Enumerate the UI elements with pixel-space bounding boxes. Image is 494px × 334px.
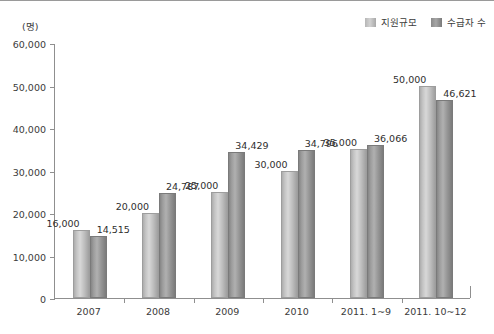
bar-group: 20,00024,787 xyxy=(124,44,193,298)
bar-series-1[interactable]: 25,000 xyxy=(211,192,228,298)
bar-series-2[interactable]: 34,796 xyxy=(298,150,315,298)
bar-series-1[interactable]: 30,000 xyxy=(281,171,298,299)
legend-item-series-2: 수급자 수 xyxy=(431,15,486,29)
bar-series-1[interactable]: 50,000 xyxy=(419,86,436,299)
bar-series-2[interactable]: 24,787 xyxy=(159,193,176,298)
legend-swatch-icon-series-2 xyxy=(431,18,442,27)
x-axis-tick xyxy=(263,298,264,303)
x-axis-category-label: 2010 xyxy=(285,306,309,317)
bar-series-2[interactable]: 46,621 xyxy=(436,100,453,298)
x-axis-category-label: 2007 xyxy=(77,306,101,317)
y-axis-tick-label: 60,000 xyxy=(13,39,46,50)
chart-container: (명) 지원규모 수급자 수 010,00020,00030,00040,000… xyxy=(0,0,494,334)
bar-series-2[interactable]: 34,429 xyxy=(228,152,245,298)
bar-value-label: 30,000 xyxy=(254,159,287,170)
bar-value-label: 34,429 xyxy=(235,140,268,151)
bar-series-1[interactable]: 16,000 xyxy=(73,230,90,298)
bar-group: 25,00034,429 xyxy=(194,44,263,298)
bar-value-label: 20,000 xyxy=(116,201,149,212)
bar-value-label: 14,515 xyxy=(97,224,130,235)
bar-series-2[interactable]: 36,066 xyxy=(367,145,384,298)
bar-series-1[interactable]: 35,000 xyxy=(350,149,367,298)
bar-value-label: 50,000 xyxy=(393,74,426,85)
x-axis-tick xyxy=(194,298,195,303)
plot-area: 010,00020,00030,00040,00050,00060,00016,… xyxy=(54,44,470,299)
chart-legend: 지원규모 수급자 수 xyxy=(365,15,486,29)
x-axis-category-label: 2011. 1~9 xyxy=(341,306,391,317)
bar-group: 30,00034,796 xyxy=(263,44,332,298)
x-axis-tick xyxy=(402,298,403,303)
x-axis-tick xyxy=(124,298,125,303)
y-axis-tick-label: 0 xyxy=(40,294,46,305)
y-axis-tick-label: 30,000 xyxy=(13,166,46,177)
y-axis-tick-label: 50,000 xyxy=(13,81,46,92)
x-axis-category-label: 2008 xyxy=(146,306,170,317)
bar-group: 16,00014,515 xyxy=(55,44,124,298)
bar-value-label: 46,621 xyxy=(443,88,476,99)
bar-group: 35,00036,066 xyxy=(332,44,401,298)
legend-label-series-1: 지원규모 xyxy=(381,15,417,29)
x-axis-category-label: 2011. 10~12 xyxy=(404,306,466,317)
bar-series-1[interactable]: 20,000 xyxy=(142,213,159,298)
x-axis-tick xyxy=(332,298,333,303)
bar-value-label: 36,066 xyxy=(374,133,407,144)
bar-value-label: 16,000 xyxy=(46,218,79,229)
y-axis-tick-label: 40,000 xyxy=(13,124,46,135)
y-axis-unit-label: (명) xyxy=(22,19,38,33)
y-axis-tick-label: 10,000 xyxy=(13,251,46,262)
bar-group: 50,00046,621 xyxy=(402,44,471,298)
bar-value-label: 25,000 xyxy=(185,180,218,191)
x-axis-category-label: 2009 xyxy=(215,306,239,317)
bar-series-2[interactable]: 14,515 xyxy=(90,236,107,298)
legend-label-series-2: 수급자 수 xyxy=(447,15,486,29)
legend-item-series-1: 지원규모 xyxy=(365,15,417,29)
y-axis-tick xyxy=(50,299,55,300)
bar-value-label: 35,000 xyxy=(324,137,357,148)
y-axis-tick-label: 20,000 xyxy=(13,209,46,220)
legend-swatch-icon-series-1 xyxy=(365,18,376,27)
